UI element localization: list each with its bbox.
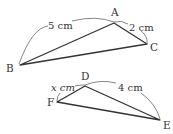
similar-triangles-diagram: 5 cm 2 cm A B C x cm 4 cm D F E: [0, 0, 173, 134]
side-label-de: 4 cm: [118, 82, 143, 93]
arc-fd-upper: [75, 85, 85, 86]
arc-ba-upper: [72, 18, 114, 22]
side-label-ac: 2 cm: [129, 22, 154, 33]
vertex-label-e: E: [163, 119, 171, 131]
vertex-label-c: C: [150, 41, 158, 53]
arc-de-upper: [85, 81, 116, 85]
vertex-label-a: A: [110, 6, 119, 18]
triangle-def: x cm 4 cm D F E: [47, 70, 171, 131]
side-label-fd: x cm: [51, 82, 75, 93]
vertex-label-d: D: [81, 70, 89, 82]
vertex-label-b: B: [6, 62, 14, 74]
diagram-svg: 5 cm 2 cm A B C x cm 4 cm D F E: [0, 0, 173, 134]
side-label-ba: 5 cm: [48, 20, 73, 31]
triangle-abc: 5 cm 2 cm A B C: [6, 6, 158, 74]
triangle-abc-outline: [20, 23, 147, 65]
vertex-label-f: F: [47, 96, 54, 108]
